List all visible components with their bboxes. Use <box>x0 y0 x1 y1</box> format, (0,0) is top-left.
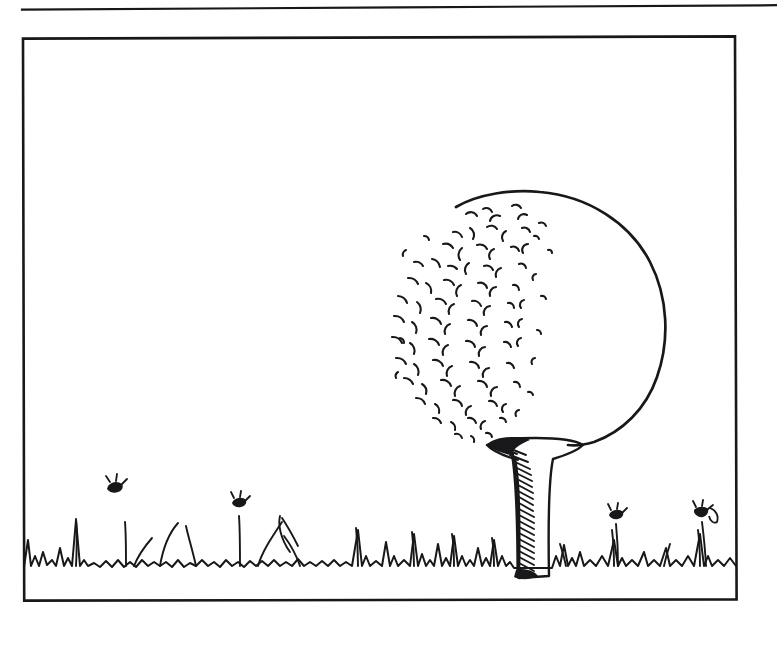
page-canvas <box>0 0 777 646</box>
paper-background <box>0 0 777 646</box>
golf-ball-illustration <box>0 0 777 646</box>
